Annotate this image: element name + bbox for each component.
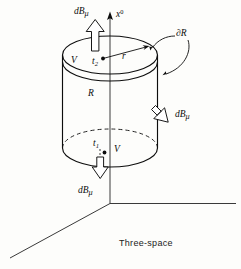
boundary-leader-lines [149, 36, 189, 75]
flux-arrow-top-shape [86, 20, 104, 52]
flux-arrow-bottom-shape [92, 157, 108, 179]
flux-arrow-side-shape [152, 106, 169, 123]
three-space-cylinder-diagram [0, 0, 241, 269]
ground-plane-axes [10, 204, 236, 259]
flux-arrow-side [152, 106, 169, 123]
label-boundary: ∂R [176, 29, 187, 39]
boundary-leader-to-side [166, 40, 189, 74]
label-flux-bottom: dBμ [78, 186, 93, 198]
label-flux-side: dBμ [175, 110, 190, 122]
label-volume-left: V [71, 56, 77, 66]
label-flux-top: dBμ [74, 7, 89, 19]
center-point-t1 [103, 151, 107, 155]
label-volume-lower: V [114, 145, 120, 155]
boundary-leader-to-rim [153, 36, 176, 48]
label-time-upper: t2 [92, 57, 98, 67]
figure-caption: Three-space [119, 238, 173, 248]
label-region-r: R [88, 89, 94, 99]
label-radius: r [122, 52, 126, 62]
flux-arrow-top [86, 20, 104, 52]
axis-diagonal-left [10, 204, 110, 259]
lower-center-indicator [103, 151, 107, 155]
figure-canvas: dBμ x0 V t2 r ∂R R dBμ t1 V dBμ Three-sp… [0, 0, 241, 269]
time-axis-x0 [107, 12, 113, 204]
label-time-lower: t1 [93, 139, 99, 149]
label-axis-x0: x0 [116, 9, 123, 19]
